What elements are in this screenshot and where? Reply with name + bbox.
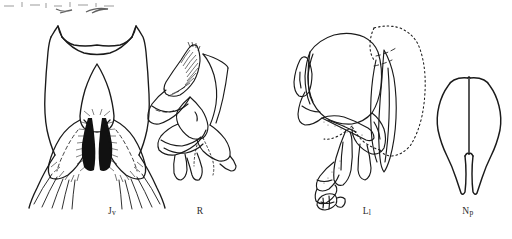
figure-label-np-sub: p <box>470 208 474 217</box>
figure-np <box>434 72 504 200</box>
figure-label-ll: Ll <box>348 206 386 216</box>
figure-label-np-main: N <box>462 206 469 216</box>
figure-label-jv-sub: v <box>112 208 116 217</box>
figure-label-ll-main: L <box>363 206 369 216</box>
figure-r <box>140 40 260 210</box>
figure-ll <box>288 22 438 212</box>
figure-label-ll-sub: l <box>369 208 371 217</box>
figure-label-r-main: R <box>197 206 204 216</box>
figure-label-jv: Jv <box>92 206 132 216</box>
illustration-plate: Jv <box>0 0 512 239</box>
figure-label-r: R <box>182 206 218 216</box>
figure-label-np: Np <box>449 206 487 216</box>
